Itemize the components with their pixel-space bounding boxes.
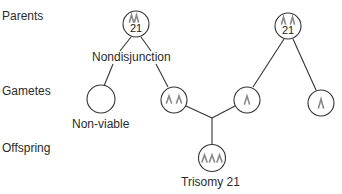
line-fuse-right	[212, 106, 235, 118]
line-to-disomic	[156, 64, 168, 87]
offspring-trisomic-cell	[199, 145, 226, 172]
line-parent1-left	[120, 37, 131, 51]
gamete-disomic	[161, 87, 187, 113]
chromosome-number-label: 21	[282, 24, 294, 36]
line-parent2-right	[293, 39, 316, 90]
line-parent2-left	[253, 39, 284, 87]
trisomy-21-label: Trisomy 21	[181, 175, 240, 189]
parent-1-cell: 21	[123, 11, 149, 37]
nondisjunction-label: Nondisjunction	[92, 50, 171, 64]
chromosome-number-label: 21	[130, 22, 142, 34]
nonviable-label: Non-viable	[72, 117, 129, 131]
parent-2-cell: 21	[275, 13, 301, 39]
nondisjunction-diagram: 21 21	[0, 0, 342, 194]
gamete-monosomic-b	[308, 90, 334, 116]
gamete-monosomic-a	[234, 87, 260, 113]
line-fuse-left	[186, 106, 212, 118]
line-parent1-right	[141, 37, 151, 51]
gamete-nullisomic	[87, 85, 115, 113]
line-to-nonviable	[104, 64, 113, 86]
